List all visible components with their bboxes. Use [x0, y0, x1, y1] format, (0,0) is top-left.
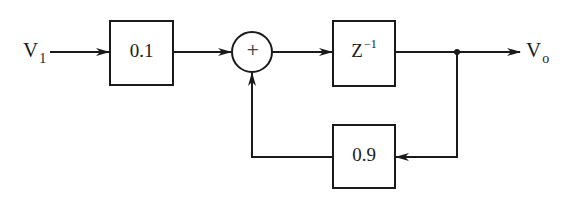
gain-input-label: 0.1 [110, 40, 173, 62]
block-diagram-canvas [0, 0, 566, 200]
output-label-subscript: o [542, 51, 549, 66]
input-label-subscript: 1 [39, 51, 46, 66]
delay-label: Z−1 [333, 40, 395, 62]
feedback-path-to-sum [252, 73, 333, 157]
junction-node-dot [454, 49, 460, 55]
feedback-path-to-gain [396, 52, 457, 157]
delay-label-superscript: −1 [364, 37, 377, 51]
input-signal-label: V1 [23, 38, 46, 63]
input-label-main: V [23, 38, 38, 62]
delay-label-main: Z [351, 40, 363, 61]
gain-feedback-label: 0.9 [333, 144, 395, 166]
output-signal-label: Vo [526, 38, 549, 63]
output-label-main: V [526, 38, 541, 62]
plus-sign-icon: + [246, 40, 259, 59]
